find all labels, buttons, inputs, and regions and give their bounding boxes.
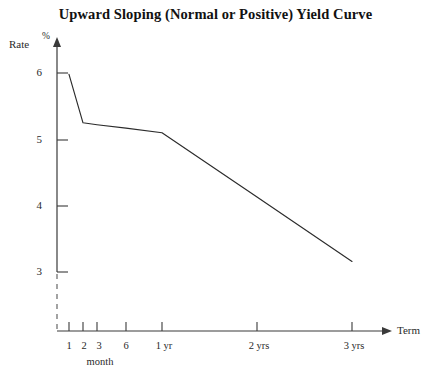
y-axis-title: Rate xyxy=(9,38,29,50)
x-axis-label-6: 6 xyxy=(123,340,128,351)
chart-plot-area xyxy=(0,0,431,376)
x-axis-arrow-icon xyxy=(382,327,392,335)
x-axis-title: Term xyxy=(397,324,420,336)
y-axis-label-6: 6 xyxy=(26,66,42,78)
yield-curve-figure: Upward Sloping (Normal or Positive) Yiel… xyxy=(0,0,431,376)
x-axis-label-2-yrs: 2 yrs xyxy=(249,340,270,351)
x-axis-label-1: 1 xyxy=(66,340,71,351)
y-axis-arrow-icon xyxy=(53,37,61,47)
x-axis-label-1-yr: 1 yr xyxy=(156,340,173,351)
y-axis-label-5: 5 xyxy=(26,133,42,145)
y-axis-label-4: 4 xyxy=(26,199,42,211)
yield-curve-line xyxy=(69,74,352,261)
x-axis-label-3: 3 xyxy=(96,340,101,351)
x-axis-label-2: 2 xyxy=(81,340,86,351)
y-axis-label-3: 3 xyxy=(26,265,42,277)
x-axis-month-unit-label: month xyxy=(87,356,114,367)
y-axis-unit-percent: % xyxy=(42,31,50,41)
x-axis-label-3-yrs: 3 yrs xyxy=(344,340,365,351)
